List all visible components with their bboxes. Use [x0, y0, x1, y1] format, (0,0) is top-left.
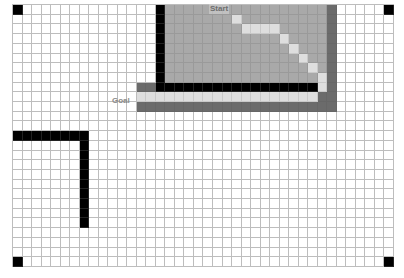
- grid-cell: [356, 121, 366, 131]
- explored-cell: [194, 54, 204, 64]
- grid-cell: [13, 180, 23, 190]
- explored-cell: [184, 63, 194, 73]
- grid-cell: [203, 248, 213, 258]
- grid-cell: [232, 131, 242, 141]
- grid-cell: [89, 189, 99, 199]
- grid-cell: [184, 112, 194, 122]
- grid-cell: [108, 24, 118, 34]
- grid-cell: [99, 24, 109, 34]
- grid-cell: [165, 257, 175, 267]
- grid-cell: [299, 151, 309, 161]
- grid-cell: [327, 218, 337, 228]
- grid-cell: [165, 131, 175, 141]
- grid-cell: [146, 257, 156, 267]
- grid-cell: [242, 238, 252, 248]
- grid-cell: [280, 218, 290, 228]
- grid-cell: [203, 151, 213, 161]
- explored-cell: [184, 5, 194, 15]
- explored-cell: [270, 63, 280, 73]
- wall-cell: [80, 170, 90, 180]
- grid-cell: [327, 228, 337, 238]
- grid-cell: [261, 180, 271, 190]
- grid-cell: [375, 34, 385, 44]
- grid-cell: [261, 170, 271, 180]
- grid-cell: [337, 257, 347, 267]
- explored-cell: [318, 15, 328, 25]
- grid-cell: [337, 228, 347, 238]
- grid-cell: [23, 189, 33, 199]
- grid-cell: [51, 5, 61, 15]
- grid-cell: [184, 141, 194, 151]
- grid-cell: [280, 209, 290, 219]
- grid-cell: [118, 218, 128, 228]
- grid-cell: [32, 189, 42, 199]
- grid-cell: [89, 121, 99, 131]
- grid-cell: [365, 63, 375, 73]
- grid-cell: [156, 199, 166, 209]
- grid-cell: [356, 199, 366, 209]
- grid-cell: [289, 121, 299, 131]
- grid-cell: [346, 257, 356, 267]
- explored-cell: [308, 73, 318, 83]
- path-cell: [213, 92, 223, 102]
- grid-cell: [337, 170, 347, 180]
- explored-cell: [308, 15, 318, 25]
- grid-cell: [356, 73, 366, 83]
- grid-cell: [356, 189, 366, 199]
- grid-cell: [108, 170, 118, 180]
- grid-cell: [384, 121, 394, 131]
- explored-cell: [270, 5, 280, 15]
- grid-cell: [137, 199, 147, 209]
- grid-cell: [23, 54, 33, 64]
- grid-cell: [99, 112, 109, 122]
- grid-cell: [13, 15, 23, 25]
- wall-cell: [213, 83, 223, 93]
- explored-cell: [308, 54, 318, 64]
- grid-cell: [270, 238, 280, 248]
- grid-cell: [194, 112, 204, 122]
- grid-cell: [346, 102, 356, 112]
- grid-cell: [80, 5, 90, 15]
- grid-cell: [308, 151, 318, 161]
- explored-cell: [213, 73, 223, 83]
- grid-cell: [375, 209, 385, 219]
- grid-cell: [108, 54, 118, 64]
- frontier-cell: [299, 102, 309, 112]
- grid-cell: [346, 151, 356, 161]
- grid-cell: [108, 238, 118, 248]
- grid-cell: [175, 160, 185, 170]
- grid-cell: [375, 54, 385, 64]
- grid-cell: [99, 151, 109, 161]
- grid-cell: [51, 189, 61, 199]
- grid-cell: [223, 170, 233, 180]
- grid-cell: [346, 34, 356, 44]
- grid-cell: [242, 151, 252, 161]
- grid-cell: [289, 257, 299, 267]
- grid-cell: [356, 180, 366, 190]
- grid-cell: [89, 170, 99, 180]
- grid-cell: [223, 141, 233, 151]
- explored-cell: [280, 63, 290, 73]
- grid-cell: [289, 180, 299, 190]
- grid-cell: [51, 73, 61, 83]
- grid-cell: [137, 209, 147, 219]
- grid-cell: [203, 189, 213, 199]
- grid-cell: [13, 44, 23, 54]
- grid-cell: [89, 15, 99, 25]
- grid-cell: [89, 199, 99, 209]
- grid-cell: [203, 170, 213, 180]
- path-cell: [175, 92, 185, 102]
- wall-cell: [299, 83, 309, 93]
- grid-cell: [346, 83, 356, 93]
- explored-cell: [175, 63, 185, 73]
- grid-cell: [32, 5, 42, 15]
- grid-cell: [156, 209, 166, 219]
- grid-cell: [299, 131, 309, 141]
- grid-cell: [365, 102, 375, 112]
- grid-cell: [308, 189, 318, 199]
- grid-cell: [203, 141, 213, 151]
- grid-cell: [23, 73, 33, 83]
- grid-cell: [375, 151, 385, 161]
- grid-cell: [375, 180, 385, 190]
- grid-cell: [23, 151, 33, 161]
